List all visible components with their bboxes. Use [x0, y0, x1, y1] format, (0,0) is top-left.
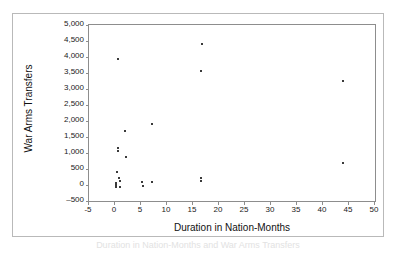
y-axis-tick-mark — [86, 57, 89, 58]
data-point — [342, 80, 344, 82]
data-point — [151, 123, 153, 125]
data-point — [117, 150, 119, 152]
y-axis-tick-label: –500 — [66, 196, 84, 204]
data-point — [342, 162, 344, 164]
y-axis-tick-label: 1,000 — [64, 148, 84, 156]
x-axis-tick-label: 45 — [344, 205, 353, 214]
x-axis-tick-label: -5 — [84, 205, 91, 214]
data-point — [116, 171, 118, 173]
y-axis-tick-label: 4,500 — [64, 36, 84, 44]
data-point — [118, 177, 120, 179]
y-axis-tick-mark — [86, 169, 89, 170]
x-axis-tick-label: 10 — [162, 205, 171, 214]
y-axis-tick-label: 3,000 — [64, 84, 84, 92]
y-axis-tick-mark — [86, 25, 89, 26]
data-point — [117, 58, 119, 60]
y-axis-tick-mark — [86, 73, 89, 74]
y-axis-tick-mark — [86, 137, 89, 138]
y-axis-tick-label: 2,000 — [64, 116, 84, 124]
x-axis-tick-label: 0 — [112, 205, 116, 214]
data-point — [200, 70, 202, 72]
y-axis-tick-mark — [86, 153, 89, 154]
data-point — [119, 186, 121, 188]
x-axis-title: Duration in Nation-Months — [88, 222, 376, 233]
data-point — [117, 147, 119, 149]
plot-area — [88, 24, 376, 202]
x-axis-tick-label: 15 — [188, 205, 197, 214]
x-axis-tick-label: 35 — [292, 205, 301, 214]
data-point — [200, 180, 202, 182]
y-axis-tick-mark — [86, 41, 89, 42]
data-point — [115, 186, 117, 188]
y-axis-tick-mark — [86, 185, 89, 186]
data-point — [142, 185, 144, 187]
y-axis-tick-mark — [86, 89, 89, 90]
y-axis-tick-label: 4,000 — [64, 52, 84, 60]
x-axis-tick-label: 20 — [214, 205, 223, 214]
x-axis-tick-label: 25 — [240, 205, 249, 214]
y-axis-tick-labels: –50005001,0001,5002,0002,5003,0003,5004,… — [40, 24, 84, 202]
y-axis-tick-label: 500 — [71, 164, 84, 172]
data-point — [141, 181, 143, 183]
y-axis-tick-label: 5,000 — [64, 20, 84, 28]
y-axis-tick-label: 1,500 — [64, 132, 84, 140]
x-axis-tick-label: 50 — [370, 205, 379, 214]
y-axis-title: War Arms Transfers — [23, 34, 34, 184]
y-axis-tick-label: 0 — [80, 180, 84, 188]
x-axis-tick-label: 30 — [266, 205, 275, 214]
scatter-plot-figure: War Arms Transfers –50005001,0001,5002,0… — [0, 0, 398, 255]
x-axis-tick-label: 5 — [138, 205, 142, 214]
y-axis-tick-label: 2,500 — [64, 100, 84, 108]
data-point — [125, 156, 127, 158]
data-point — [119, 180, 121, 182]
data-point — [151, 181, 153, 183]
y-axis-tick-mark — [86, 105, 89, 106]
y-axis-tick-mark — [86, 121, 89, 122]
x-axis-tick-label: 40 — [318, 205, 327, 214]
y-axis-tick-label: 3,500 — [64, 68, 84, 76]
data-point — [124, 130, 126, 132]
data-point — [201, 43, 203, 45]
figure-caption: Duration in Nation-Months and War Arms T… — [12, 240, 384, 252]
data-point — [200, 177, 202, 179]
x-axis-tick-labels: -505101520253035404550 — [88, 205, 376, 219]
